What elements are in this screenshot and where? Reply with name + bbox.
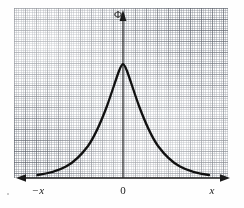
gaussian-figure: −x 0 x Φ bbox=[0, 0, 244, 208]
x-axis-label-origin: 0 bbox=[120, 185, 126, 196]
x-axis-label-negative: −x bbox=[32, 185, 44, 196]
plot-overlay bbox=[0, 0, 244, 208]
x-axis-left-arrowhead bbox=[16, 174, 26, 182]
scan-speck bbox=[7, 193, 9, 195]
y-axis-label-phi: Φ bbox=[114, 9, 122, 20]
x-axis-label-positive: x bbox=[210, 185, 215, 196]
x-axis-right-arrowhead bbox=[220, 174, 230, 182]
